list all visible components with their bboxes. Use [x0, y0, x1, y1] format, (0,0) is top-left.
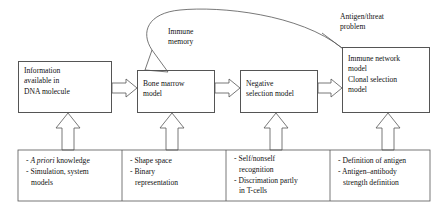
label-immune-memory: Immune memory	[168, 27, 193, 48]
detail-bullet: - Discrimation partly	[234, 176, 324, 187]
detail-rest: knowledge	[55, 156, 90, 165]
detail-cell-negative-selection[interactable]: - Self/nonself recognition - Discrimatio…	[226, 150, 330, 201]
arrow-detail-bone-marrow-up	[160, 113, 184, 150]
label-line: Antigen/threat	[340, 12, 384, 22]
detail-rest: Simulation, system	[30, 167, 88, 176]
stage-group-immune-network: Immune network model	[348, 54, 424, 75]
antigen-problem-leader-line	[322, 33, 342, 48]
stage-line: model	[348, 85, 424, 95]
detail-rest: Binary	[134, 167, 155, 176]
detail-rest: Shape space	[134, 156, 171, 165]
label-line: Immune	[168, 27, 193, 37]
detail-continuation: representation	[130, 178, 220, 189]
diagram-canvas: Information available in DNA molecule Bo…	[0, 0, 445, 209]
stage-line: available in	[24, 76, 106, 86]
stage-box-bone-marrow[interactable]: Bone marrow model	[137, 70, 215, 113]
detail-bullet: - Binary	[130, 167, 220, 178]
detail-continuation: in T-cells	[234, 186, 324, 197]
detail-rest: Discrimation partly	[238, 176, 297, 185]
stage-box-negative-selection[interactable]: Negative selection model	[240, 70, 318, 113]
stage-line: Immune network	[348, 54, 424, 64]
detail-bullet: - Shape space	[130, 156, 220, 167]
detail-cell-bone-marrow[interactable]: - Shape space - Binary representation	[122, 150, 226, 201]
stage-line: Clonal selection	[348, 75, 424, 85]
label-line: problem	[340, 22, 384, 32]
detail-bullet: - Antigen–antibody	[338, 167, 424, 178]
detail-cell-dna[interactable]: - A priori knowledge - Simulation, syste…	[18, 150, 122, 201]
arrow-detail-negative-selection-up	[264, 113, 288, 150]
stage-line: model	[348, 64, 424, 74]
stage-line: Information	[24, 66, 106, 76]
arrow-detail-dna-up	[56, 113, 80, 150]
stage-line: DNA molecule	[24, 87, 106, 97]
detail-rest: Self/nonself	[238, 154, 275, 163]
label-line: memory	[168, 37, 193, 47]
detail-continuation: models	[26, 178, 116, 189]
detail-rest: Antigen–antibody	[342, 167, 397, 176]
arrow-bone-marrow-to-negative-selection	[215, 79, 240, 97]
detail-bullet: - Simulation, system	[26, 167, 116, 178]
stage-box-information-dna[interactable]: Information available in DNA molecule	[18, 61, 112, 113]
stage-line: Bone marrow	[143, 79, 209, 89]
detail-italic: A priori	[30, 156, 54, 165]
arrow-detail-immune-network-up	[376, 113, 400, 150]
arrow-dna-to-bone-marrow	[112, 79, 137, 97]
stage-line: model	[143, 89, 209, 99]
stage-box-immune-network-clonal[interactable]: Immune network model Clonal selection mo…	[342, 47, 430, 113]
detail-continuation: recognition	[234, 165, 324, 176]
detail-bullet: - Definition of antigen	[338, 156, 424, 167]
detail-bullet: - Self/nonself	[234, 154, 324, 165]
arrow-negative-selection-to-immune-network	[318, 79, 342, 97]
detail-continuation: strength definition	[338, 178, 424, 189]
detail-rest: Definition of antigen	[342, 156, 406, 165]
detail-bullet: - A priori knowledge	[26, 156, 116, 167]
stage-line: selection model	[246, 89, 312, 99]
stage-group-clonal-selection: Clonal selection model	[348, 75, 424, 96]
detail-cell-immune-network[interactable]: - Definition of antigen - Antigen–antibo…	[330, 150, 430, 201]
stage-line: Negative	[246, 79, 312, 89]
label-antigen-threat-problem: Antigen/threat problem	[340, 12, 384, 33]
